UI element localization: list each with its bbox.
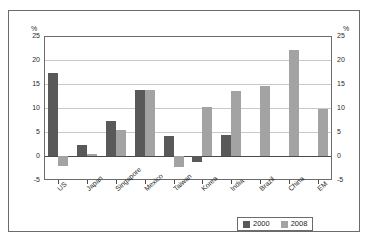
y-tick-label-right: -5 xyxy=(337,176,353,183)
clipped-caption-text xyxy=(2,0,122,7)
y-tick-label-left: 15 xyxy=(24,80,40,87)
chart-legend: 20002008 xyxy=(237,217,313,231)
gridline xyxy=(45,108,331,109)
y-tick-label-right: 10 xyxy=(337,104,353,111)
y-tick-label-left: 20 xyxy=(24,56,40,63)
gridline xyxy=(45,60,331,61)
zero-baseline xyxy=(45,156,331,157)
y-tick-label-right: 5 xyxy=(337,128,353,135)
y-tick-label-right: 15 xyxy=(337,80,353,87)
legend-swatch-icon xyxy=(243,221,250,228)
y-tick-label-left: 10 xyxy=(24,104,40,111)
y-tick-label-right: 0 xyxy=(337,152,353,159)
chart-figure-frame: % % 2520151050-5 2520151050-5 USJapanSin… xyxy=(8,10,360,232)
y-tick-label-left: 5 xyxy=(24,128,40,135)
y-tick-label-left: 0 xyxy=(24,152,40,159)
legend-item-2000[interactable]: 2000 xyxy=(243,220,270,228)
legend-swatch-icon xyxy=(281,221,288,228)
plot-area xyxy=(44,36,332,180)
gridline xyxy=(45,84,331,85)
legend-label: 2008 xyxy=(291,220,308,228)
y-tick-label-right: 25 xyxy=(337,32,353,39)
y-tick-label-right: 20 xyxy=(337,56,353,63)
gridline xyxy=(45,132,331,133)
y-tick-label-left: -5 xyxy=(24,176,40,183)
legend-item-2008[interactable]: 2008 xyxy=(281,220,308,228)
y-tick-label-left: 25 xyxy=(24,32,40,39)
legend-label: 2000 xyxy=(253,220,270,228)
